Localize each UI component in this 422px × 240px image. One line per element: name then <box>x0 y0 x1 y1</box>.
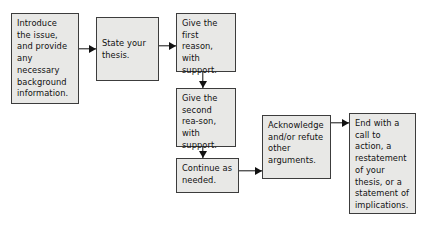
arrow-acknowledge-to-conclusion <box>331 118 349 128</box>
arrow-head-icon <box>199 151 207 158</box>
flowchart-node-acknowledge: Acknowledge and/or refute other argument… <box>262 115 331 179</box>
arrow-thesis-to-first-reason <box>159 41 176 51</box>
flowchart-node-label: Continue as needed. <box>182 163 233 186</box>
arrow-head-icon <box>169 42 176 50</box>
arrow-continue-to-acknowledge <box>239 166 262 176</box>
flowchart-node-label: Acknowledge and/or refute other argument… <box>268 120 325 167</box>
flowchart-node-label: Introduce the issue, and provide any nec… <box>17 18 73 100</box>
flowchart-node-introduce: Introduce the issue, and provide any nec… <box>11 13 79 104</box>
arrow-head-icon <box>199 81 207 88</box>
arrow-head-icon <box>89 45 96 53</box>
flowchart-node-conclusion: End with a call to action, a restatement… <box>349 113 416 214</box>
flowchart-canvas: Introduce the issue, and provide any nec… <box>0 0 422 240</box>
arrow-head-icon <box>255 167 262 175</box>
arrow-head-icon <box>342 119 349 127</box>
flowchart-node-label: State your thesis. <box>102 38 153 61</box>
arrow-introduce-to-thesis <box>79 44 96 54</box>
flowchart-node-label: Give the second rea-son, with support. <box>182 93 230 152</box>
flowchart-node-continue: Continue as needed. <box>176 158 239 193</box>
flowchart-node-thesis: State your thesis. <box>96 17 159 81</box>
flowchart-node-label: End with a call to action, a restatement… <box>355 118 410 212</box>
flowchart-node-label: Give the first reason, with support. <box>182 18 230 77</box>
flowchart-node-first-reason: Give the first reason, with support. <box>176 13 236 72</box>
flowchart-node-second-reason: Give the second rea-son, with support. <box>176 88 236 147</box>
